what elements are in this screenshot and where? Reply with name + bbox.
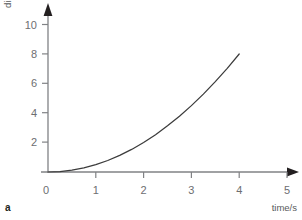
x-axis-arrow-icon bbox=[287, 167, 299, 176]
x-axis-title: time/s bbox=[272, 202, 298, 213]
y-axis-arrow-icon bbox=[44, 3, 53, 16]
x-tick-label-3: 3 bbox=[188, 184, 194, 196]
panel-label: a bbox=[5, 202, 11, 213]
y-tick-label-6: 6 bbox=[31, 77, 37, 89]
x-axis-ticks bbox=[96, 172, 287, 178]
figure-panel: 10 8 6 4 2 0 1 2 3 4 5 distance/m time/s bbox=[0, 0, 302, 220]
x-tick-label-5: 5 bbox=[284, 184, 290, 196]
x-tick-label-1: 1 bbox=[93, 184, 99, 196]
x-tick-label-0: 0 bbox=[43, 184, 49, 196]
y-tick-label-2: 2 bbox=[31, 136, 37, 148]
distance-time-chart: 10 8 6 4 2 0 1 2 3 4 5 distance/m time/s bbox=[0, 0, 302, 220]
y-tick-label-4: 4 bbox=[31, 107, 37, 119]
x-tick-label-4: 4 bbox=[236, 184, 242, 196]
y-tick-label-8: 8 bbox=[31, 48, 37, 60]
x-tick-label-2: 2 bbox=[141, 184, 147, 196]
y-axis-title: distance/m bbox=[2, 0, 13, 8]
data-series-curve bbox=[48, 54, 239, 172]
y-tick-label-10: 10 bbox=[25, 19, 37, 31]
y-axis-ticks bbox=[42, 25, 48, 143]
x-axis-tick-labels: 0 1 2 3 4 5 bbox=[43, 184, 290, 196]
y-axis-tick-labels: 10 8 6 4 2 bbox=[25, 19, 37, 149]
